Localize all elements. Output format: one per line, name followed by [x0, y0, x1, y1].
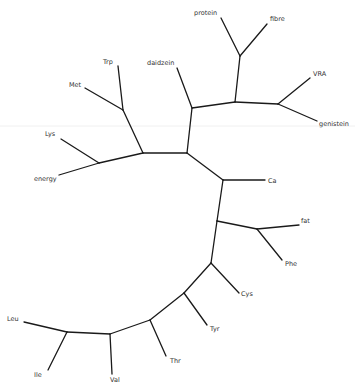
branch-Leu [24, 322, 67, 332]
branch-energy [59, 163, 99, 175]
label-Lys: Lys [45, 130, 56, 138]
branch-Phe [257, 229, 282, 260]
branch-internal-Ca-fat [217, 180, 223, 221]
branch-Thr [150, 320, 166, 356]
branch-Trp [118, 66, 123, 110]
label-Val: Val [110, 376, 120, 384]
branch-internal-spine2 [184, 263, 211, 293]
branch-daidzein [177, 68, 192, 108]
label-Met: Met [69, 81, 82, 89]
branch-protein [221, 18, 240, 56]
label-fibre: fibre [270, 15, 285, 23]
branch-internal-spine5 [67, 332, 110, 334]
label-Cys: Cys [241, 290, 253, 298]
branch-lys-energy-stem [99, 153, 143, 163]
branch-trp-met-stem [123, 110, 143, 153]
branches [24, 18, 317, 374]
branch-protein-fibre-stem [235, 56, 240, 102]
label-protein: protein [194, 9, 217, 17]
label-Ca: Ca [268, 177, 277, 185]
branch-fibre [240, 24, 267, 56]
label-energy: energy [34, 175, 57, 183]
label-fat: fat [301, 217, 310, 225]
label-Tyr: Tyr [209, 325, 220, 333]
branch-internal-ED [192, 102, 235, 108]
branch-VRA-genistein-stem [235, 102, 278, 104]
branch-internal-spine4 [110, 320, 150, 334]
leaf-labels: protein fibre VRA genistein daidzein Trp… [7, 9, 349, 384]
label-Phe: Phe [285, 260, 297, 268]
branch-Val [110, 334, 112, 374]
branch-internal-spine1 [211, 221, 217, 263]
branch-Tyr [184, 293, 207, 325]
label-VRA: VRA [313, 70, 327, 78]
branch-Met [85, 88, 123, 110]
label-Ile: Ile [34, 371, 42, 379]
label-Thr: Thr [169, 357, 181, 365]
branch-VRA [278, 78, 310, 104]
tree-diagram: protein fibre VRA genistein daidzein Trp… [0, 0, 355, 391]
label-Trp: Trp [102, 58, 113, 66]
branch-Cys [211, 263, 239, 293]
branch-internal-C-Ca [187, 153, 223, 180]
branch-Ile [48, 332, 67, 370]
branch-internal-spine3 [150, 293, 184, 320]
branch-fat [257, 225, 299, 229]
label-Leu: Leu [7, 315, 19, 323]
branch-genistein [278, 104, 317, 121]
branch-Lys [61, 139, 99, 163]
label-daidzein: daidzein [147, 59, 174, 67]
branch-internal-DC [187, 108, 192, 153]
branch-fat-phe-stem [217, 221, 257, 229]
label-genistein: genistein [319, 120, 349, 128]
